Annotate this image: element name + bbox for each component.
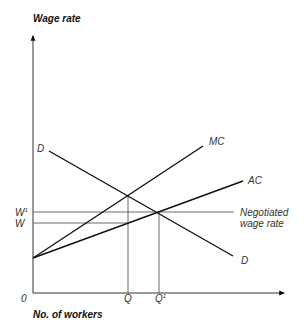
demand-label-end: D [241, 255, 248, 266]
demand-curve [49, 151, 233, 256]
marginal-cost-curve [33, 146, 203, 258]
mc-label: MC [209, 136, 225, 147]
x-axis-title: No. of workers [33, 309, 103, 320]
average-cost-curve [33, 181, 243, 258]
demand-label-start: D [37, 143, 44, 154]
ac-label: AC [247, 175, 263, 186]
negotiated-label-line2: wage rate [240, 218, 284, 229]
y-axis-title: Wage rate [33, 13, 81, 24]
negotiated-label-line1: Negotiated [240, 207, 289, 218]
quantity-q1-label: Q1 [155, 293, 166, 304]
origin-label: 0 [21, 293, 27, 304]
wage-w1-label: W1 [15, 207, 28, 218]
quantity-q-label: Q [124, 293, 132, 304]
labour-market-diagram: Wage rate No. of workers 0 D D MC AC W1 … [0, 0, 304, 332]
wage-w-label: W [15, 218, 26, 229]
